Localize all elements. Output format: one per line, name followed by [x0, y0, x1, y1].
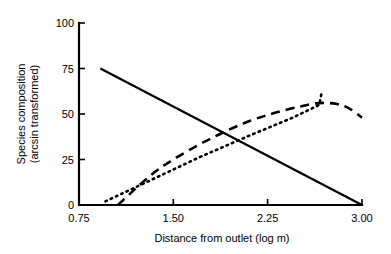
chart-figure: 100 75 50 25 0 0.75 1.50 2.25 3.00 Dista…: [0, 0, 391, 254]
series-dashed-curve: [118, 103, 362, 205]
x-tick-label-0-75: 0.75: [68, 212, 89, 224]
y-tick-label-0: 0: [68, 199, 74, 211]
y-tick-label-50: 50: [62, 108, 74, 120]
y-tick-label-100: 100: [56, 17, 74, 29]
x-tick-label-3-00: 3.00: [351, 212, 372, 224]
y-tick-label-25: 25: [62, 154, 74, 166]
x-tick-label-1-50: 1.50: [163, 212, 184, 224]
y-axis-title-line1: Species composition: [15, 64, 27, 165]
series-solid-line: [100, 69, 362, 206]
y-axis-title-line2: (arcsin transformed): [28, 65, 40, 163]
chart-plot-area: 100 75 50 25 0 0.75 1.50 2.25 3.00 Dista…: [0, 0, 391, 254]
x-tick-label-2-25: 2.25: [257, 212, 278, 224]
x-axis-title: Distance from outlet (log m): [154, 232, 289, 244]
y-tick-label-75: 75: [62, 63, 74, 75]
